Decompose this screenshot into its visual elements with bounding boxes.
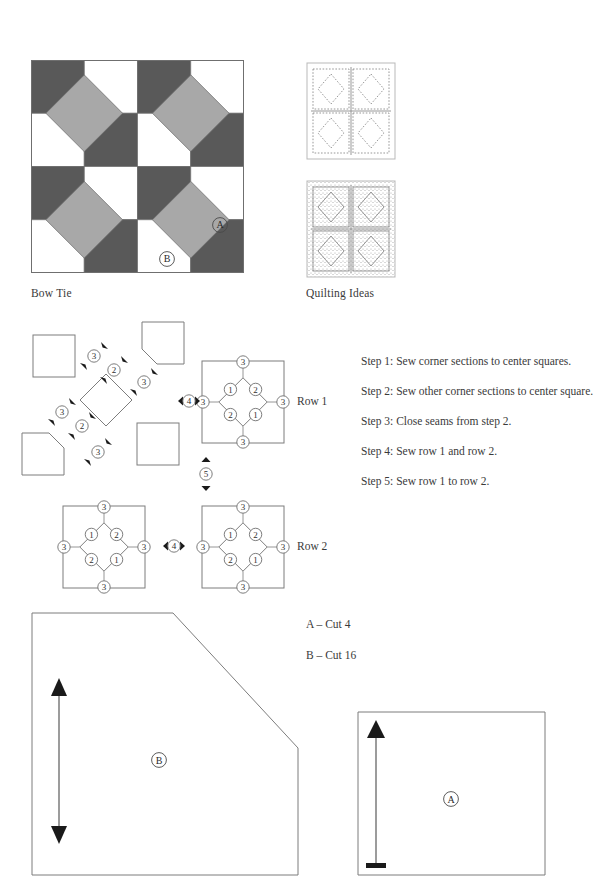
svg-text:2: 2 [253,530,258,540]
quilting-idea-2 [306,180,396,278]
svg-text:3: 3 [60,407,65,417]
svg-text:1: 1 [253,555,258,565]
pattern-piece-b-label: B [156,755,163,766]
step-item-2: Step 2: Sew other corner sections to cen… [361,385,593,397]
pattern-piece-b: B [31,612,311,876]
svg-text:1: 1 [228,385,233,395]
svg-text:3: 3 [281,542,286,552]
svg-text:2: 2 [89,555,94,565]
exploded-svg: 323323 [38,322,198,472]
pattern-piece-a: A [357,711,549,876]
svg-text:3: 3 [281,397,286,407]
label-a-text: A [216,219,224,230]
label-b-text: B [164,253,171,264]
quilting-ideas-caption: Quilting Ideas [306,287,374,299]
svg-text:1: 1 [228,530,233,540]
svg-text:3: 3 [92,351,97,361]
svg-text:1: 1 [253,410,258,420]
svg-text:2: 2 [228,555,233,565]
svg-text:3: 3 [241,357,246,367]
svg-text:3: 3 [142,377,147,387]
marker-4-row1: 4 [178,391,200,411]
exploded-assembly-diagram: 323323 [38,322,198,472]
row-1-label: Row 1 [297,395,327,407]
bow-tie-caption: Bow Tie [31,287,72,299]
pattern-piece-a-label: A [447,794,455,805]
marker-5: 5 [196,457,216,491]
svg-text:3: 3 [201,397,206,407]
step-item-1: Step 1: Sew corner sections to center sq… [361,355,593,367]
svg-text:3: 3 [62,542,67,552]
svg-text:2: 2 [80,421,85,431]
svg-text:2: 2 [253,385,258,395]
row-2-block-right-svg: 33331221 [197,501,289,593]
bow-tie-label-b: B [158,250,176,268]
bow-tie-label-a: A [211,216,229,234]
step-item-3: Step 3: Close seams from step 2. [361,415,593,427]
label-a-badge: A [211,216,229,234]
svg-text:2: 2 [228,410,233,420]
svg-text:3: 3 [241,582,246,592]
svg-text:3: 3 [142,542,147,552]
marker-4-row1-text: 4 [187,396,192,406]
svg-text:2: 2 [112,365,117,375]
step-item-4: Step 4: Sew row 1 and row 2. [361,445,593,457]
steps-list: Step 1: Sew corner sections to center sq… [361,355,593,487]
svg-text:3: 3 [201,542,206,552]
pattern-piece-b-svg: B [31,612,311,876]
row-2-block-right: 33331221 [197,501,289,593]
svg-text:3: 3 [96,447,101,457]
marker-4-row2: 4 [163,536,185,556]
svg-text:3: 3 [241,502,246,512]
row-2-block-left-svg: 33331221 [58,501,150,593]
svg-text:2: 2 [114,530,119,540]
row-1-join-marker: 4 [178,391,200,411]
quilting-idea-2-svg [306,180,396,278]
svg-text:1: 1 [114,555,119,565]
row-2-label: Row 2 [297,540,327,552]
label-b-badge: B [158,250,176,268]
pattern-piece-a-svg: A [357,711,549,876]
bow-tie-block: A B [31,60,244,273]
bow-tie-svg [31,60,244,273]
svg-text:1: 1 [89,530,94,540]
step-item-5: Step 5: Sew row 1 to row 2. [361,475,593,487]
row-1-block: 33331221 [197,356,289,448]
quilting-idea-1-svg [306,62,396,160]
svg-text:3: 3 [102,502,107,512]
marker-4-row2-text: 4 [172,541,177,551]
cutting-list: A – Cut 4 B – Cut 16 [306,618,356,661]
marker-5-text: 5 [204,469,209,479]
cutting-item-b: B – Cut 16 [306,649,356,661]
row-2-block-left: 33331221 [58,501,150,593]
svg-text:3: 3 [102,582,107,592]
quilting-idea-1 [306,62,396,160]
rows-join-marker: 5 [196,457,216,491]
cutting-item-a: A – Cut 4 [306,618,356,630]
svg-text:3: 3 [241,437,246,447]
row-1-block-svg: 33331221 [197,356,289,448]
row-2-join-marker: 4 [163,536,185,556]
